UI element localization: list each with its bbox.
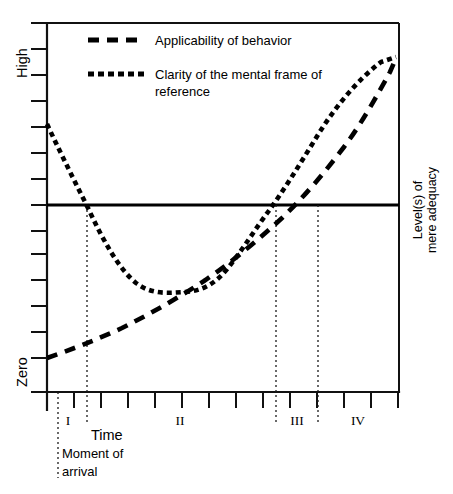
- right-axis-label-line2: mere adequacy: [425, 166, 439, 253]
- legend-label-applicability: Applicability of behavior: [155, 33, 292, 48]
- legend-label-clarity: Clarity of the mental frame of: [155, 67, 322, 82]
- series-clarity-path: [47, 57, 396, 293]
- phase-label-iv: IV: [351, 413, 365, 428]
- phase-label-ii: II: [176, 413, 185, 428]
- x-axis-ticks: [47, 392, 398, 408]
- right-axis-label-line1: Level(s) of: [411, 180, 425, 239]
- x-axis-title: Time: [91, 427, 123, 443]
- moment-of-arrival-label-line2: arrival: [62, 464, 98, 479]
- chart-figure: Applicability of behavior Clarity of the…: [0, 0, 453, 494]
- y-axis-high-label: High: [14, 48, 30, 78]
- phase-label-i: I: [66, 413, 71, 428]
- phase-label-iii: III: [290, 413, 304, 428]
- moment-of-arrival-label-line1: Moment of: [62, 446, 124, 461]
- legend-label-clarity-line2: reference: [155, 84, 210, 99]
- legend: Applicability of behavior Clarity of the…: [88, 33, 322, 99]
- y-axis-ticks: [31, 23, 47, 392]
- y-axis-zero-label: Zero: [14, 357, 30, 387]
- chart-svg: Applicability of behavior Clarity of the…: [0, 0, 453, 494]
- series-applicability-path: [47, 58, 396, 358]
